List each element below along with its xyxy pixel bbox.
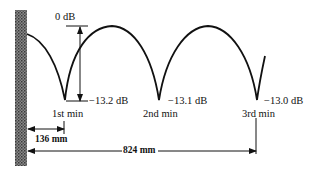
zero-db-label: 0 dB [55,12,75,23]
standing-wave-diagram [0,0,325,173]
first-min-level-label: −13.2 dB [89,96,128,107]
third-min-level-label: −13.0 dB [264,96,303,107]
third-min-distance-label: 824 mm [123,146,155,156]
first-min-distance-label: 136 mm [35,135,67,145]
second-min-level-label: −13.1 dB [168,96,207,107]
second-min-label: 2nd min [143,109,178,120]
standing-wave-curve [27,26,265,100]
reflecting-wall [15,10,27,166]
third-min-label: 3rd min [242,109,275,120]
first-min-label: 1st min [52,109,83,120]
